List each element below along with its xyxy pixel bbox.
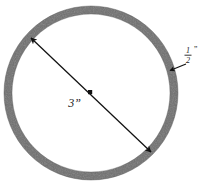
- fraction-denominator: 2: [186, 56, 190, 65]
- diameter-label: 3”: [67, 96, 81, 110]
- ring-dimension-figure: 3” 1 2 ”: [0, 0, 204, 187]
- diameter-midpoint-tick: [88, 90, 92, 94]
- diagram-canvas: 3” 1 2 ”: [0, 0, 204, 187]
- fraction-inch-mark: ”: [193, 45, 198, 54]
- fraction-numerator: 1: [186, 46, 190, 55]
